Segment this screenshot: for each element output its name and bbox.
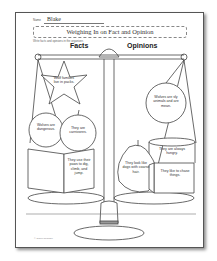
fact-star: Wolf families live in packs. <box>53 76 75 85</box>
opinion-cylinder: They are always hungry. <box>154 147 190 156</box>
fact-apple-left: Wolves are dangerous. <box>32 123 60 132</box>
fact-book: They use their paws to dig, climb, and j… <box>66 158 92 176</box>
opinion-pear: They look like dogs with coarse hair. <box>122 161 150 174</box>
fact-apple-right: They are carnivores. <box>64 126 92 135</box>
worksheet-page: Name Blake Weighing In on Fact and Opini… <box>15 12 204 248</box>
opinion-box: They like to chase things. <box>158 169 192 178</box>
copyright: © Super Teacher <box>34 237 53 240</box>
opinion-circle: Wolves are sly animals and are mean. <box>151 95 181 108</box>
